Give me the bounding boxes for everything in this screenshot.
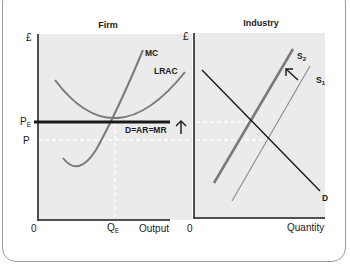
pe-label: PE	[20, 116, 32, 128]
industry-panel: Industry £ 0 Quantity S2 S1 D	[183, 18, 328, 234]
industry-origin-label: 0	[187, 223, 193, 234]
firm-y-axis-label: £	[26, 32, 32, 43]
mc-label: MC	[145, 48, 158, 58]
p-label: P	[23, 135, 30, 146]
industry-demand-label: D	[322, 193, 328, 203]
demand-label: D=AR=MR	[125, 125, 167, 135]
firm-panel: Firm £ PE P 0 QE Output MC LRAC D=AR=MR	[20, 20, 196, 234]
quantity-label: Quantity	[287, 222, 324, 233]
industry-y-axis-label: £	[183, 31, 189, 42]
qe-label: QE	[107, 222, 120, 234]
economics-diagram: Firm £ PE P 0 QE Output MC LRAC D=AR=MR …	[0, 0, 350, 265]
output-label: Output	[139, 223, 169, 234]
industry-title: Industry	[243, 18, 279, 28]
lrac-label: LRAC	[154, 66, 178, 76]
firm-origin-label: 0	[31, 223, 37, 234]
firm-title: Firm	[98, 20, 118, 30]
